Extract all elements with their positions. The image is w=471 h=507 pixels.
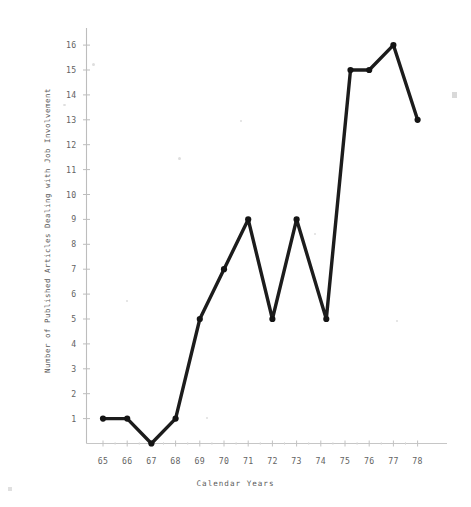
data-point — [390, 42, 396, 48]
y-axis-tick-label: 1 — [55, 414, 77, 424]
x-axis-tick-label: 67 — [139, 456, 163, 466]
scan-speck — [126, 300, 128, 302]
data-line — [103, 45, 418, 443]
y-axis-tick-label: 12 — [55, 140, 77, 150]
x-axis-tick-label: 78 — [406, 456, 430, 466]
data-point — [366, 67, 372, 73]
plot-area: 12345678910111213141516 6566676869707172… — [0, 0, 471, 507]
x-axis-tick-label: 68 — [164, 456, 188, 466]
y-axis-tick-label: 8 — [55, 239, 77, 249]
chart-canvas — [0, 0, 471, 507]
x-axis-tick-label: 66 — [115, 456, 139, 466]
data-point — [269, 316, 275, 322]
x-axis-tick-label: 70 — [212, 456, 236, 466]
chart-figure: Number of Published Articles Dealing wit… — [0, 0, 471, 507]
data-point — [294, 216, 300, 222]
scan-artifact-left — [8, 487, 12, 491]
scan-speck — [240, 120, 242, 122]
y-axis-tick-label: 14 — [55, 90, 77, 100]
x-axis-tick-label: 69 — [188, 456, 212, 466]
data-point — [173, 416, 179, 422]
y-axis-tick-label: 5 — [55, 314, 77, 324]
y-axis-tick-label: 3 — [55, 364, 77, 374]
x-axis-tick-label: 77 — [381, 456, 405, 466]
data-point-markers — [100, 42, 421, 447]
data-point — [323, 316, 329, 322]
data-point — [100, 416, 106, 422]
x-axis-tick-label: 65 — [91, 456, 115, 466]
x-axis-tick-label: 71 — [236, 456, 260, 466]
x-axis-tick-label: 75 — [333, 456, 357, 466]
data-point — [415, 117, 421, 123]
x-axis-tick-label: 72 — [260, 456, 284, 466]
scan-speck — [206, 417, 208, 419]
y-axis-tick-label: 16 — [55, 40, 77, 50]
y-axis-tick-label: 6 — [55, 289, 77, 299]
data-point — [148, 440, 154, 446]
y-axis-tick-label: 13 — [55, 115, 77, 125]
y-axis-tick-label: 7 — [55, 264, 77, 274]
x-axis-tick-label: 73 — [285, 456, 309, 466]
data-point — [197, 316, 203, 322]
data-point — [347, 67, 353, 73]
y-axis-tick-label: 10 — [55, 190, 77, 200]
x-axis-tick-label: 74 — [309, 456, 333, 466]
y-axis-tick-label: 9 — [55, 214, 77, 224]
scan-speck — [314, 233, 316, 235]
scan-speck — [178, 157, 181, 160]
y-axis-tick-label: 4 — [55, 339, 77, 349]
y-axis-tick-label: 15 — [55, 65, 77, 75]
x-axis-tick-label: 76 — [357, 456, 381, 466]
data-point — [221, 266, 227, 272]
scan-speck — [63, 104, 66, 106]
data-point — [124, 416, 130, 422]
scan-speck — [92, 63, 95, 66]
scan-artifact-right — [452, 92, 457, 98]
y-axis-tick-label: 11 — [55, 165, 77, 175]
y-axis-tick-label: 2 — [55, 389, 77, 399]
scan-speck — [396, 320, 398, 322]
data-point — [245, 216, 251, 222]
